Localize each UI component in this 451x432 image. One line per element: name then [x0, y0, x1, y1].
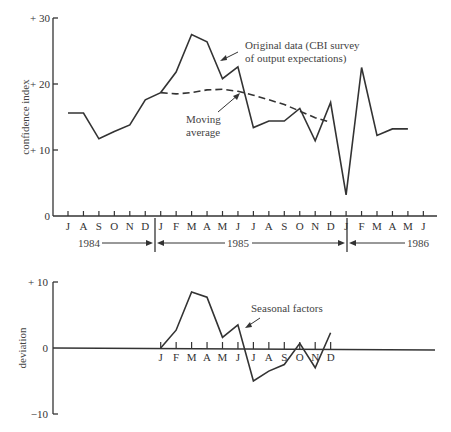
arrow-head-icon — [220, 55, 227, 61]
annotation-moving-2: average — [186, 126, 220, 138]
year-label-1984: 1984 — [78, 237, 101, 249]
month-label: O — [296, 220, 304, 232]
ytick-0: 0 — [43, 342, 49, 354]
month-label: A — [265, 351, 273, 363]
ytick-plus10: + 10 — [28, 276, 48, 288]
month-label: M — [187, 220, 197, 232]
bottom-chart: + 10 0 −10 deviation JFMAMJJASOND Season… — [16, 276, 435, 420]
ytick-30: + 30 — [30, 12, 50, 24]
annotation-original-data-1: Original data (CBI survey — [245, 39, 360, 52]
arrow-right-icon — [146, 240, 153, 246]
ytick-20: + 20 — [30, 78, 50, 90]
month-label: D — [327, 351, 335, 363]
ytick-minus10: −10 — [31, 408, 49, 420]
month-label: J — [159, 351, 164, 363]
month-label: M — [403, 220, 413, 232]
month-label: F — [173, 220, 179, 232]
month-label: J — [236, 220, 241, 232]
top-chart: 0 + 10 + 20 + 30 confidence index JASOND… — [19, 12, 437, 252]
month-label: F — [173, 351, 179, 363]
annotation-seasonal: Seasonal factors — [251, 302, 323, 314]
month-label: M — [187, 351, 197, 363]
month-label: O — [296, 351, 304, 363]
month-label: J — [251, 220, 256, 232]
top-month-labels: JASONDJFMAMJJASONDJFMAMJ — [66, 220, 426, 232]
bottom-y-label: deviation — [16, 327, 28, 368]
month-label: N — [126, 220, 134, 232]
ytick-0: 0 — [45, 210, 51, 222]
arrow-head-icon — [245, 322, 252, 328]
top-x-ticks — [68, 211, 423, 216]
bottom-x-ticks — [161, 342, 331, 349]
month-label: M — [218, 351, 228, 363]
month-label: S — [281, 220, 287, 232]
month-label: J — [66, 220, 71, 232]
month-label: F — [358, 220, 364, 232]
arrow-right-icon — [338, 240, 345, 246]
year-label-1986: 1986 — [407, 237, 430, 249]
chart-canvas: 0 + 10 + 20 + 30 confidence index JASOND… — [0, 0, 451, 432]
month-label: D — [327, 220, 335, 232]
month-label: A — [203, 220, 211, 232]
month-label: J — [251, 351, 256, 363]
month-label: J — [421, 220, 426, 232]
month-label: M — [372, 220, 382, 232]
month-label: A — [203, 351, 211, 363]
year-label-1985: 1985 — [227, 237, 250, 249]
month-label: A — [79, 220, 87, 232]
month-label: N — [311, 220, 319, 232]
month-label: M — [218, 220, 228, 232]
annotation-original-data-2: of output expectations) — [245, 52, 347, 65]
month-label: A — [388, 220, 396, 232]
month-label: A — [265, 220, 273, 232]
month-label: J — [159, 220, 164, 232]
top-y-label: confidence index — [19, 79, 31, 155]
annotation-moving-1: Moving — [186, 113, 221, 125]
ytick-10: + 10 — [30, 144, 50, 156]
original-data-line — [68, 35, 408, 195]
month-label: J — [236, 351, 241, 363]
month-label: S — [96, 220, 102, 232]
month-label: O — [110, 220, 118, 232]
month-label: D — [141, 220, 149, 232]
